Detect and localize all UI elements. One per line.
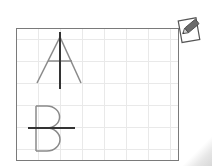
pencil-on-paper-icon[interactable] — [176, 14, 204, 46]
